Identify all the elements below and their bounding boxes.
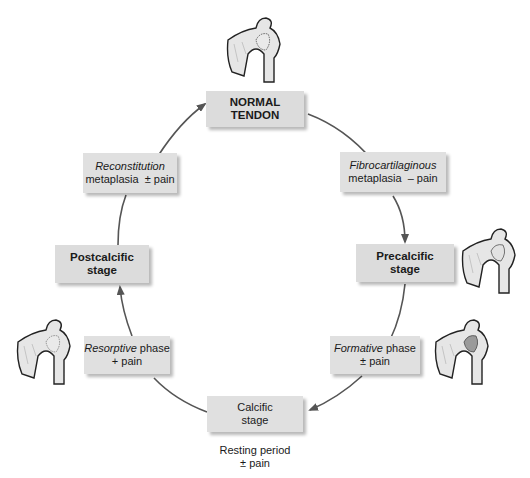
arrow-precalcific-to-formative	[390, 284, 405, 340]
shoulder-formative-illustration	[430, 316, 496, 386]
precalcific-line1: Precalcific	[376, 250, 434, 263]
arrow-resorptive-to-postcalcific	[120, 287, 132, 336]
arrow-calcific-to-resorptive	[154, 378, 207, 412]
calcific-line2: stage	[242, 414, 269, 427]
precalcific-stage-box: Precalcific stage	[356, 244, 454, 282]
resting-line1: Resting period	[205, 444, 305, 457]
postcalcific-line2: stage	[87, 264, 117, 277]
formative-phase-box: Formative phase ± pain	[330, 336, 420, 374]
arrow-reconstitution-to-normal	[158, 104, 205, 156]
calcific-line1: Calcific	[237, 401, 272, 414]
arrow-fibro-to-precalcific	[393, 196, 405, 242]
postcalcific-stage-box: Postcalcific stage	[55, 245, 149, 283]
formative-phase-word: phase	[383, 342, 416, 354]
resorptive-phase-word: phase	[137, 342, 170, 354]
reconstitution-label: Reconstitution	[95, 160, 165, 173]
postcalcific-line1: Postcalcific	[70, 251, 134, 264]
precalcific-line2: stage	[390, 263, 420, 276]
shoulder-precalcific-illustration	[457, 225, 523, 295]
reconstitution-pain: metaplasia ± pain	[85, 173, 174, 186]
fibrocartilaginous-label: Fibrocartilaginous	[350, 159, 437, 172]
resting-period-caption: Resting period ± pain	[205, 444, 305, 470]
arrow-postcalcific-to-reconstitution	[118, 195, 126, 245]
shoulder-resorptive-illustration	[12, 316, 78, 386]
fibrocartilaginous-box: Fibrocartilaginous metaplasia – pain	[340, 152, 446, 192]
formative-label: Formative	[334, 342, 383, 354]
calcific-stage-box: Calcific stage	[207, 396, 303, 432]
shoulder-normal-illustration	[222, 14, 288, 84]
fibrocartilaginous-pain: metaplasia – pain	[348, 172, 437, 185]
resorptive-label: Resorptive	[84, 342, 137, 354]
formative-line1: Formative phase	[334, 342, 416, 355]
arrow-formative-to-calcific	[310, 376, 362, 410]
normal-tendon-box: NORMAL TENDON	[206, 91, 304, 127]
normal-tendon-line1: NORMAL	[230, 96, 280, 109]
reconstitution-box: Reconstitution metaplasia ± pain	[83, 153, 177, 193]
normal-tendon-line2: TENDON	[231, 109, 280, 122]
formative-pain: ± pain	[360, 355, 390, 368]
resorptive-phase-box: Resorptive phase + pain	[84, 336, 170, 374]
resting-line2: ± pain	[205, 457, 305, 470]
resorptive-line1: Resorptive phase	[84, 342, 170, 355]
resorptive-pain: + pain	[112, 355, 142, 368]
